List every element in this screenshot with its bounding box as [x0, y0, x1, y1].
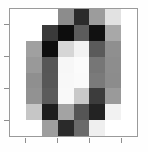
y-axis-tick [4, 24, 9, 25]
heatmap-cell [26, 120, 42, 136]
heatmap-cell [26, 88, 42, 104]
heatmap-cell [58, 57, 74, 73]
heatmap-cell [121, 9, 137, 25]
x-axis-tick [25, 138, 26, 143]
heatmap-cell [58, 41, 74, 57]
heatmap-cell [10, 104, 26, 120]
heatmap-cell [42, 9, 58, 25]
heatmap-cell [105, 57, 121, 73]
heatmap-cell [121, 88, 137, 104]
heatmap-cell [74, 25, 90, 41]
heatmap-cell [10, 57, 26, 73]
heatmap-cell [89, 41, 105, 57]
heatmap-cell [74, 9, 90, 25]
x-axis-tick [57, 138, 58, 143]
heatmap-cell [105, 9, 121, 25]
heatmap-cell [10, 88, 26, 104]
heatmap-cell [58, 104, 74, 120]
heatmap-cell [89, 25, 105, 41]
heatmap-cell [10, 9, 26, 25]
heatmap-cell [105, 25, 121, 41]
heatmap-cell [26, 73, 42, 89]
heatmap-cell [105, 73, 121, 89]
heatmap-cell [74, 120, 90, 136]
heatmap-cell [89, 120, 105, 136]
heatmap-cell [42, 73, 58, 89]
heatmap-cell [74, 57, 90, 73]
heatmap-cell [26, 104, 42, 120]
heatmap-cell [26, 9, 42, 25]
figure-canvas [0, 0, 148, 152]
heatmap-cell [26, 57, 42, 73]
heatmap-cell [89, 73, 105, 89]
heatmap-cell [10, 120, 26, 136]
heatmap-cell [121, 120, 137, 136]
heatmap-cell [74, 104, 90, 120]
heatmap-cell [121, 57, 137, 73]
heatmap-cell [121, 25, 137, 41]
heatmap-cell [10, 41, 26, 57]
y-axis-tick [4, 88, 9, 89]
heatmap-grid [10, 9, 137, 136]
heatmap-cell [105, 88, 121, 104]
heatmap-cell [58, 9, 74, 25]
y-axis-tick [4, 56, 9, 57]
x-axis-tick [121, 138, 122, 143]
heatmap-cell [42, 25, 58, 41]
heatmap-cell [58, 120, 74, 136]
heatmap-cell [58, 25, 74, 41]
heatmap-cell [58, 73, 74, 89]
heatmap-cell [89, 88, 105, 104]
heatmap-cell [121, 104, 137, 120]
heatmap-cell [74, 88, 90, 104]
heatmap-cell [105, 120, 121, 136]
heatmap-cell [42, 104, 58, 120]
heatmap-cell [10, 25, 26, 41]
heatmap-cell [121, 73, 137, 89]
x-axis-tick [89, 138, 90, 143]
heatmap-cell [105, 104, 121, 120]
heatmap-cell [89, 104, 105, 120]
heatmap-cell [42, 120, 58, 136]
heatmap-cell [58, 88, 74, 104]
heatmap-cell [10, 73, 26, 89]
heatmap-cell [89, 9, 105, 25]
heatmap-cell [26, 41, 42, 57]
heatmap-cell [26, 25, 42, 41]
heatmap-cell [74, 73, 90, 89]
heatmap-axes[interactable] [9, 8, 138, 137]
y-axis-tick [4, 120, 9, 121]
heatmap-cell [42, 57, 58, 73]
heatmap-cell [42, 88, 58, 104]
heatmap-cell [105, 41, 121, 57]
heatmap-cell [89, 57, 105, 73]
heatmap-cell [74, 41, 90, 57]
heatmap-cell [121, 41, 137, 57]
heatmap-cell [42, 41, 58, 57]
